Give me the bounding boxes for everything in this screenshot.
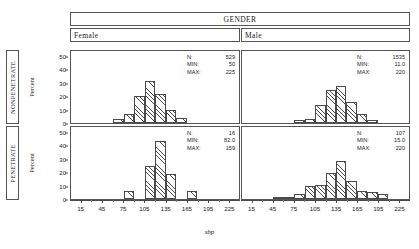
histogram-bar — [336, 161, 346, 199]
x-axis-tick-label: 165 — [182, 205, 192, 212]
x-axis-tick-label: 195 — [373, 205, 383, 212]
plot-panel-female-penetrate: N:16 MIN:82.0 MAX:159 — [70, 126, 240, 200]
stats-min-value: 15.0 — [379, 137, 405, 144]
y-axis-bottom: 01020304050 — [38, 126, 68, 200]
column-header-female-label: Female — [71, 31, 98, 40]
y-axis-label-top-text: Percent — [28, 77, 35, 97]
y-axis-tick-mark — [65, 70, 68, 71]
stats-max-label: MAX: — [357, 69, 379, 76]
x-axis-tick-mark — [187, 200, 188, 203]
histogram-bar — [124, 114, 135, 123]
x-axis-tick-label: 165 — [352, 205, 362, 212]
stats-min-label: MIN: — [357, 61, 379, 68]
x-axis-minor-tick-mark — [176, 200, 177, 202]
x-axis-minor-tick-mark — [304, 200, 305, 202]
x-axis-tick-mark — [357, 200, 358, 203]
x-axis-tick-mark — [294, 200, 295, 203]
column-header-male-label: Male — [242, 31, 262, 40]
histogram-bar — [155, 94, 166, 123]
column-header-female: Female — [70, 28, 240, 42]
x-axis-tick-label: 105 — [139, 205, 149, 212]
x-axis-tick-mark — [208, 200, 209, 203]
y-axis-tick-mark — [65, 97, 68, 98]
histogram-bar — [367, 120, 377, 123]
stats-max-value: 159 — [209, 145, 235, 152]
stats-max-label: MAX: — [187, 69, 209, 76]
y-axis-tick-mark — [65, 200, 68, 201]
plot-panel-male-nonpenetrate: N:1535 MIN:11.0 MAX:220 — [241, 50, 410, 124]
histogram-bar — [155, 141, 166, 199]
x-axis-left: 154575105135165195225 — [70, 200, 240, 222]
histogram-bar — [294, 194, 304, 199]
row-header-penetrate: PENETRATE — [6, 126, 19, 200]
x-axis-tick-label: 195 — [203, 205, 213, 212]
y-axis-label-bottom: Percent — [26, 126, 36, 200]
histogram-bar — [294, 120, 304, 123]
stats-n-value: 1535 — [379, 54, 405, 61]
x-axis-tick-label: 225 — [394, 205, 404, 212]
y-axis-top: 01020304050 — [38, 50, 68, 124]
x-axis-minor-tick-mark — [389, 200, 390, 202]
x-axis-tick-label: 75 — [290, 205, 297, 212]
histogram-bar — [346, 181, 356, 199]
y-axis-tick-mark — [65, 146, 68, 147]
y-axis-tick-mark — [65, 173, 68, 174]
x-axis-minor-tick-mark — [155, 200, 156, 202]
x-axis-minor-tick-mark — [219, 200, 220, 202]
y-axis-tick-mark — [65, 159, 68, 160]
stats-min-value: 50 — [209, 61, 235, 68]
stats-n-label: N: — [187, 54, 209, 61]
histogram-bar — [273, 197, 283, 199]
x-axis-tick-label: 105 — [310, 205, 320, 212]
histogram-bar — [305, 119, 315, 123]
stats-box-female-penetrate: N:16 MIN:82.0 MAX:159 — [187, 130, 235, 152]
x-axis-tick-mark — [273, 200, 274, 203]
histogram-bar — [367, 192, 377, 199]
x-axis-tick-label: 225 — [224, 205, 234, 212]
x-axis-minor-tick-mark — [134, 200, 135, 202]
x-axis-minor-tick-mark — [91, 200, 92, 202]
y-axis-tick-mark — [65, 132, 68, 133]
row-header-nonpenetrate-label: NONPENETRATE — [9, 61, 16, 114]
stats-n-value: 16 — [209, 130, 235, 137]
x-axis-minor-tick-mark — [262, 200, 263, 202]
x-axis-tick-mark — [144, 200, 145, 203]
x-axis-minor-tick-mark — [198, 200, 199, 202]
stats-box-female-nonpenetrate: N:529 MIN:50 MAX:225 — [187, 54, 235, 76]
row-header-penetrate-label: PENETRATE — [9, 144, 16, 182]
x-axis-tick-label: 75 — [120, 205, 127, 212]
y-axis-tick-mark — [65, 110, 68, 111]
stats-min-label: MIN: — [357, 137, 379, 144]
histogram-bar — [315, 185, 325, 199]
histogram-bar — [113, 119, 124, 123]
stats-max-value: 220 — [379, 145, 405, 152]
x-axis-tick-label: 45 — [98, 205, 105, 212]
row-header-nonpenetrate: NONPENETRATE — [6, 50, 19, 124]
histogram-bar — [326, 173, 336, 199]
x-axis-minor-tick-mark — [347, 200, 348, 202]
histogram-bar — [357, 191, 367, 199]
x-axis-tick-mark — [378, 200, 379, 203]
stats-n-label: N: — [187, 130, 209, 137]
stats-max-label: MAX: — [187, 145, 209, 152]
y-axis-tick-mark — [65, 124, 68, 125]
histogram-bar — [176, 118, 187, 123]
stats-n-value: 529 — [209, 54, 235, 61]
histogram-bar — [336, 86, 346, 123]
y-axis-tick-mark — [65, 83, 68, 84]
x-axis-minor-tick-mark — [283, 200, 284, 202]
x-axis-tick-label: 15 — [77, 205, 84, 212]
y-axis-tick-mark — [65, 186, 68, 187]
column-group-label: GENDER — [224, 15, 257, 24]
histogram-bar — [187, 191, 198, 199]
histogram-bar — [305, 186, 315, 199]
stats-box-male-penetrate: N:107 MIN:15.0 MAX:220 — [357, 130, 405, 152]
histogram-bar — [166, 110, 177, 123]
x-axis-tick-mark — [123, 200, 124, 203]
x-axis-tick-mark — [81, 200, 82, 203]
x-axis-tick-mark — [229, 200, 230, 203]
x-axis-minor-tick-mark — [368, 200, 369, 202]
x-axis-tick-label: 15 — [248, 205, 255, 212]
x-axis-tick-mark — [336, 200, 337, 203]
stats-min-label: MIN: — [187, 61, 209, 68]
